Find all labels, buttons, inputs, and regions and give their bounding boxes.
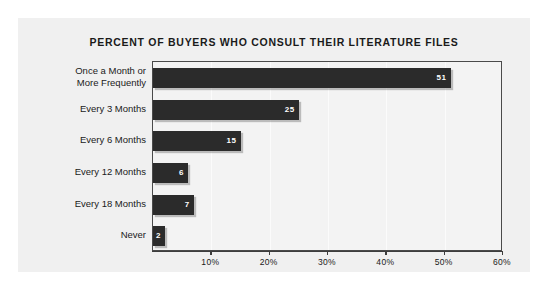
bar-value-label: 6 <box>179 169 184 177</box>
x-axis-tick-label: 30% <box>318 257 336 267</box>
bar[interactable]: 51 <box>153 68 451 88</box>
x-axis-tick-label: 20% <box>260 257 278 267</box>
bar[interactable]: 7 <box>153 195 194 215</box>
x-axis-tick <box>210 251 211 255</box>
gridline <box>270 62 271 250</box>
bar-value-label: 51 <box>436 74 446 82</box>
bar[interactable]: 2 <box>153 226 165 246</box>
gridline <box>328 62 329 250</box>
bar-row: 6 <box>153 163 188 183</box>
x-axis-tick-label: 40% <box>376 257 394 267</box>
x-axis: 10%20%30%40%50%60% <box>152 251 502 273</box>
bar[interactable]: 15 <box>153 131 241 151</box>
bar-value-label: 7 <box>185 201 190 209</box>
chart-figure: PERCENT OF BUYERS WHO CONSULT THEIR LITE… <box>18 18 530 272</box>
x-axis-tick <box>444 251 445 255</box>
bar-row: 51 <box>153 68 451 88</box>
y-axis-category-label: Every 18 Months <box>24 198 152 210</box>
gridline <box>386 62 387 250</box>
x-axis-tick <box>269 251 270 255</box>
plot-area: 512515672 <box>152 61 502 251</box>
y-axis-category-labels: Once a Month orMore FrequentlyEvery 3 Mo… <box>18 61 152 251</box>
bar-value-label: 2 <box>156 232 161 240</box>
x-axis-tick-label: 10% <box>201 257 219 267</box>
y-axis-category-label: Once a Month orMore Frequently <box>24 65 152 88</box>
bar[interactable]: 6 <box>153 163 188 183</box>
y-axis-category-label: Every 12 Months <box>24 166 152 178</box>
x-axis-tick <box>502 251 503 255</box>
y-axis-category-label-line: Never <box>24 229 146 241</box>
y-axis-category-label: Every 6 Months <box>24 134 152 146</box>
bar-value-label: 15 <box>226 137 236 145</box>
y-axis-category-label-line: Every 6 Months <box>24 134 146 146</box>
bar[interactable]: 25 <box>153 100 299 120</box>
x-axis-tick-label: 50% <box>435 257 453 267</box>
y-axis-category-label: Never <box>24 229 152 241</box>
y-axis-category-label-line: Every 18 Months <box>24 198 146 210</box>
x-axis-tick <box>385 251 386 255</box>
bar-row: 7 <box>153 195 194 215</box>
bar-row: 25 <box>153 100 299 120</box>
bar-row: 2 <box>153 226 165 246</box>
y-axis-category-label-line: Every 12 Months <box>24 166 146 178</box>
x-axis-tick <box>327 251 328 255</box>
x-axis-tick-label: 60% <box>493 257 511 267</box>
bar-row: 15 <box>153 131 241 151</box>
bar-value-label: 25 <box>285 106 295 114</box>
chart-title: PERCENT OF BUYERS WHO CONSULT THEIR LITE… <box>18 36 530 48</box>
y-axis-category-label-line: Once a Month or <box>24 65 146 77</box>
y-axis-category-label: Every 3 Months <box>24 103 152 115</box>
gridline <box>211 62 212 250</box>
y-axis-category-label-line: Every 3 Months <box>24 103 146 115</box>
y-axis-category-label-line: More Frequently <box>24 77 146 89</box>
gridline <box>445 62 446 250</box>
